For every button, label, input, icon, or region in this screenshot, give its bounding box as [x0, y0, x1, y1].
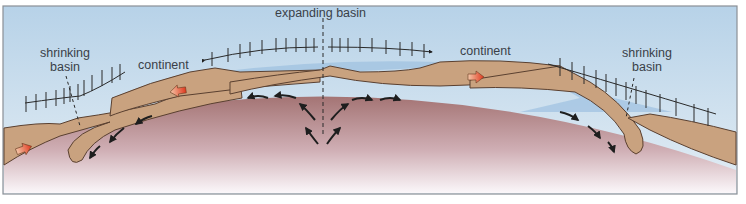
continent-left-label: continent — [138, 58, 189, 72]
shrinking-basin-left-line2: basin — [40, 60, 90, 74]
plate-tectonics-diagram: expanding basin shrinking basin continen… — [0, 0, 746, 204]
shrinking-basin-right-line2: basin — [622, 60, 672, 74]
shrinking-basin-left-label: shrinking basin — [40, 46, 90, 74]
shrinking-basin-right-label: shrinking basin — [622, 46, 672, 74]
shrinking-basin-right-line1: shrinking — [622, 46, 672, 60]
diagram-canvas — [0, 0, 746, 204]
shrinking-basin-left-line1: shrinking — [40, 46, 90, 60]
expanding-basin-label: expanding basin — [275, 6, 366, 20]
continent-right-label: continent — [460, 44, 511, 58]
